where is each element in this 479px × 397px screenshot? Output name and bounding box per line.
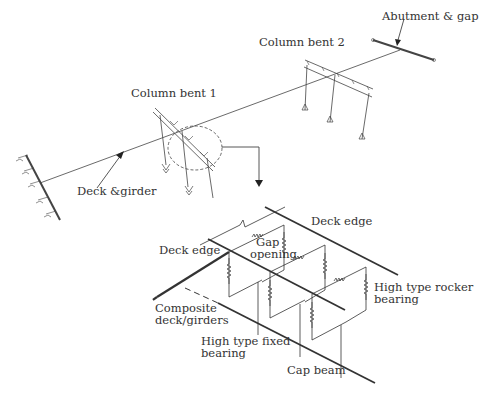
label-cap-beam: Cap beam xyxy=(287,364,346,377)
label-column-bent-2: Column bent 2 xyxy=(259,36,345,49)
label-deck-edge-top: Deck edge xyxy=(311,215,372,228)
label-deck-girder: Deck &girder xyxy=(77,185,157,198)
deck-girder-line xyxy=(40,50,400,183)
label-fixed-bearing-2: bearing xyxy=(201,347,246,360)
label-abutment-gap: Abutment & gap xyxy=(382,10,479,23)
label-deck-edge-left: Deck edge xyxy=(159,244,220,257)
column-bent-2 xyxy=(302,60,373,139)
label-rocker-bearing-2: bearing xyxy=(374,293,419,306)
left-abutment xyxy=(16,155,60,220)
label-composite-2: deck/girders xyxy=(155,314,229,327)
composite-deck-line xyxy=(157,252,229,297)
right-abutment xyxy=(372,39,436,62)
label-gap-opening-2: opening xyxy=(250,248,297,261)
detail-callout-arrow xyxy=(222,147,259,180)
label-column-bent-1: Column bent 1 xyxy=(131,87,217,100)
detail-view xyxy=(150,207,398,383)
